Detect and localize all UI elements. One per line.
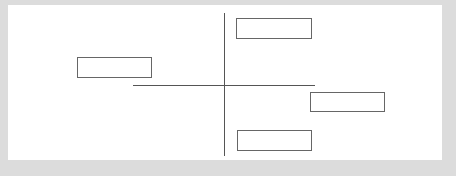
horizontal-axis-line [133,85,315,86]
diagram-canvas [8,5,442,160]
box-middle-right [310,92,385,112]
box-top-right [236,18,312,39]
box-left [77,57,152,78]
box-bottom-right [237,130,312,151]
